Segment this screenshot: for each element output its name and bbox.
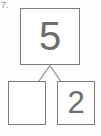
part-box-left[interactable] <box>8 81 46 125</box>
whole-number-value: 5 <box>39 16 61 56</box>
connector-line-left <box>39 66 50 82</box>
whole-number-box[interactable]: 5 <box>20 8 80 65</box>
part-box-right[interactable]: 2 <box>57 81 95 125</box>
connector-line-right <box>50 66 61 82</box>
number-bond-problem: 7. 5 2 <box>0 0 101 136</box>
part-right-value: 2 <box>67 87 84 118</box>
